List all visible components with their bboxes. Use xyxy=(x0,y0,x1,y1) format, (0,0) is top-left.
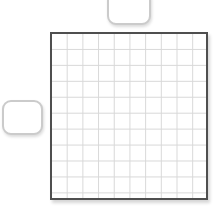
draggable-tile-left[interactable] xyxy=(2,100,43,135)
draggable-tile-top[interactable] xyxy=(107,0,151,25)
canvas-area xyxy=(0,0,221,219)
grid-drop-area[interactable] xyxy=(50,32,208,200)
